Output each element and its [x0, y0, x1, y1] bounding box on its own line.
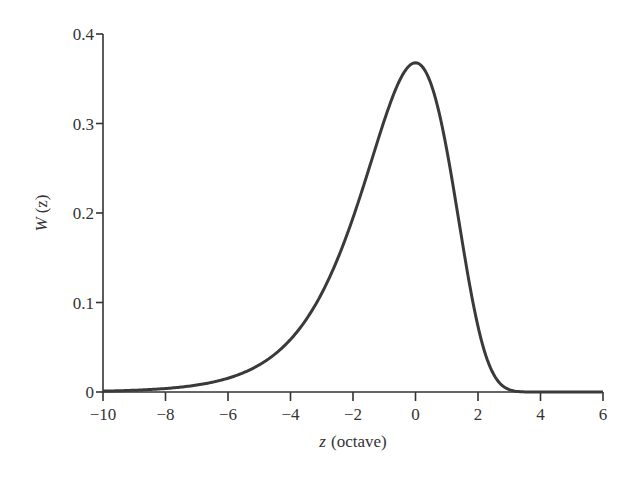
x-tick-label: 2 — [474, 405, 483, 424]
y-ticks: 00.10.20.30.4 — [73, 25, 103, 402]
y-tick-label: 0.3 — [73, 115, 94, 134]
y-axis-label: W(z) — [32, 194, 51, 231]
x-tick-label: −2 — [344, 405, 362, 424]
x-tick-label: −10 — [90, 405, 117, 424]
y-tick-label: 0.4 — [73, 25, 95, 44]
x-ticks: −10−8−6−4−20246 — [90, 392, 608, 424]
y-tick-label: 0.1 — [73, 294, 94, 313]
y-tick-label: 0.2 — [73, 204, 94, 223]
y-tick-label: 0 — [86, 383, 95, 402]
x-tick-label: −8 — [156, 405, 174, 424]
x-tick-label: −6 — [219, 405, 237, 424]
w-z-curve — [103, 63, 603, 392]
x-axis-label: z(octave) — [318, 432, 386, 451]
x-tick-label: 0 — [411, 405, 420, 424]
x-tick-label: −4 — [281, 405, 300, 424]
x-tick-label: 6 — [599, 405, 608, 424]
x-tick-label: 4 — [536, 405, 545, 424]
chart: 00.10.20.30.4 −10−8−6−4−20246 z(octave) … — [0, 0, 637, 482]
plot-area: 00.10.20.30.4 −10−8−6−4−20246 — [73, 25, 608, 424]
